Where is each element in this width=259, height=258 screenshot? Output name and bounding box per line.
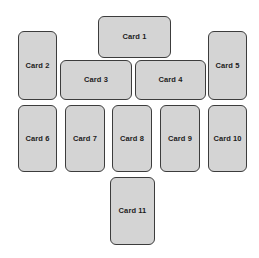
card[interactable]: Card 8: [112, 105, 152, 172]
card-label: Card 6: [26, 135, 50, 143]
card-label: Card 3: [84, 76, 108, 84]
card-label: Card 7: [73, 135, 97, 143]
card[interactable]: Card 10: [208, 105, 247, 172]
card[interactable]: Card 1: [98, 16, 171, 58]
card[interactable]: Card 7: [65, 105, 105, 172]
card-label: Card 1: [123, 33, 147, 41]
card[interactable]: Card 4: [135, 60, 206, 100]
card[interactable]: Card 11: [110, 177, 155, 245]
card[interactable]: Card 2: [18, 31, 57, 100]
card[interactable]: Card 9: [160, 105, 200, 172]
card[interactable]: Card 5: [208, 31, 247, 100]
card-label: Card 11: [119, 207, 147, 215]
card-layout-canvas: Card 1Card 2Card 3Card 4Card 5Card 6Card…: [0, 0, 259, 258]
card-label: Card 9: [168, 135, 192, 143]
card[interactable]: Card 6: [18, 105, 57, 172]
card[interactable]: Card 3: [60, 60, 132, 100]
card-label: Card 8: [120, 135, 144, 143]
card-label: Card 2: [26, 62, 50, 70]
card-label: Card 5: [216, 62, 240, 70]
card-label: Card 4: [159, 76, 183, 84]
card-label: Card 10: [213, 135, 241, 143]
